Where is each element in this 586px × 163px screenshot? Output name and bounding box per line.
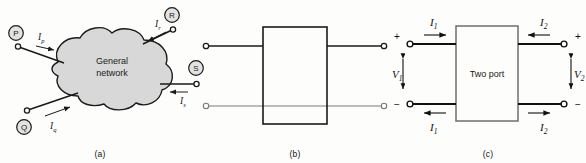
current-label-q: Iq bbox=[49, 121, 57, 133]
polarity-minus-left: − bbox=[394, 99, 400, 110]
current-arrow-p bbox=[36, 46, 54, 50]
terminal-node-q[interactable] bbox=[24, 108, 29, 113]
terminal-label-p: P bbox=[13, 29, 18, 38]
current-label-i2-bottom: I2 bbox=[539, 121, 548, 136]
panel-b-two-port-box: (b) bbox=[200, 0, 390, 163]
general-network-label-line1: General bbox=[96, 56, 128, 66]
panel-c-two-port: Two port I1 I2 I1 I2 V1 + bbox=[390, 0, 586, 163]
terminal-label-q: Q bbox=[21, 123, 27, 132]
terminal-node-p[interactable] bbox=[15, 44, 20, 49]
voltage-label-v2: V2 bbox=[574, 68, 585, 83]
current-arrow-q bbox=[45, 107, 70, 116]
general-network-label-line2: network bbox=[96, 68, 128, 78]
current-label-s: Is bbox=[179, 96, 186, 108]
lead-r bbox=[143, 30, 172, 44]
terminal-label-s: S bbox=[193, 64, 198, 73]
terminal-node-top-left[interactable] bbox=[203, 43, 208, 48]
lead-q bbox=[28, 93, 78, 110]
two-port-label: Two port bbox=[470, 69, 505, 79]
polarity-plus-left: + bbox=[394, 31, 400, 42]
current-label-r: Ir bbox=[154, 19, 161, 31]
current-label-i2-top: I2 bbox=[539, 16, 548, 31]
panel-a-caption: (a) bbox=[0, 149, 200, 159]
panel-c-caption: (c) bbox=[390, 149, 586, 159]
terminal-node-top-right[interactable] bbox=[381, 43, 386, 48]
current-arrow-r bbox=[148, 32, 166, 41]
terminal-node-bottom-left[interactable] bbox=[203, 103, 208, 108]
polarity-minus-right: − bbox=[575, 99, 581, 110]
polarity-plus-right: + bbox=[575, 31, 581, 42]
current-label-i1-top: I1 bbox=[429, 16, 437, 31]
terminal-node-bottom-right[interactable] bbox=[561, 101, 567, 107]
terminal-node-r[interactable] bbox=[170, 27, 175, 32]
panel-c-drawing: Two port I1 I2 I1 I2 V1 + bbox=[390, 0, 586, 150]
panel-a-general-network: General network P Ip R Ir S Is bbox=[0, 0, 200, 163]
network-box bbox=[263, 27, 327, 124]
terminal-node-s[interactable] bbox=[194, 81, 199, 86]
panel-a-drawing: General network P Ip R Ir S Is bbox=[0, 0, 200, 150]
terminal-node-top-right[interactable] bbox=[561, 41, 567, 47]
current-label-i1-bottom: I1 bbox=[429, 121, 437, 136]
current-label-p: Ip bbox=[37, 32, 45, 44]
voltage-label-v1: V1 bbox=[392, 68, 402, 83]
panel-b-drawing bbox=[200, 0, 390, 150]
panel-b-caption: (b) bbox=[200, 149, 390, 159]
terminal-node-bottom-left[interactable] bbox=[407, 101, 413, 107]
figure-two-port-networks: General network P Ip R Ir S Is bbox=[0, 0, 586, 163]
terminal-node-bottom-right[interactable] bbox=[381, 103, 386, 108]
terminal-label-r: R bbox=[169, 11, 175, 20]
terminal-node-top-left[interactable] bbox=[407, 41, 413, 47]
